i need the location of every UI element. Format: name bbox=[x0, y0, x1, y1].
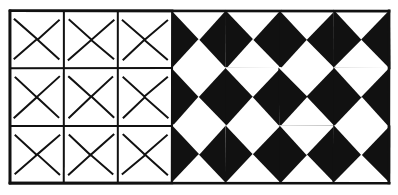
cell-vertical-bowtie-r2c5 bbox=[225, 67, 282, 127]
cell-horizontal-bowtie-r1c1 bbox=[10, 11, 64, 68]
cell-horizontal-bowtie-r3c5 bbox=[225, 125, 282, 184]
cell-vertical-bowtie-r2c1 bbox=[10, 68, 64, 126]
cell-vertical-bowtie-r1c4 bbox=[170, 9, 227, 69]
cell-horizontal-bowtie-r2c4 bbox=[171, 67, 228, 127]
cell-horizontal-bowtie-r1c3 bbox=[118, 11, 172, 68]
cell-vertical-bowtie-r3c2 bbox=[64, 126, 118, 183]
cell-vertical-bowtie-r1c2 bbox=[64, 11, 118, 68]
cell-horizontal-bowtie-r3c1 bbox=[10, 126, 64, 183]
bowtie-grid-svg bbox=[0, 0, 398, 195]
cell-horizontal-bowtie-r1c5 bbox=[225, 9, 281, 69]
cell-vertical-bowtie-r2c3 bbox=[118, 68, 172, 126]
cell-vertical-bowtie-r2c7 bbox=[333, 67, 391, 128]
cells-layer bbox=[10, 9, 391, 184]
pattern-figure bbox=[0, 0, 398, 195]
cell-horizontal-bowtie-r3c3 bbox=[118, 126, 172, 183]
cell-vertical-bowtie-r1c6 bbox=[279, 10, 336, 70]
cell-horizontal-bowtie-r3c7 bbox=[332, 125, 390, 184]
cell-vertical-bowtie-r3c4 bbox=[171, 125, 227, 185]
cell-horizontal-bowtie-r2c6 bbox=[278, 66, 335, 127]
cell-horizontal-bowtie-r2c2 bbox=[64, 68, 118, 126]
cell-horizontal-bowtie-r1c7 bbox=[333, 10, 391, 70]
cell-vertical-bowtie-r3c6 bbox=[279, 125, 335, 184]
